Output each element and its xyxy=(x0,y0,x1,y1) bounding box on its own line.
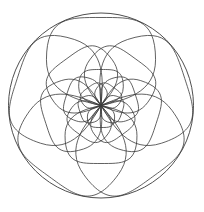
mandala-figure xyxy=(0,0,204,212)
figure-root xyxy=(0,0,204,212)
